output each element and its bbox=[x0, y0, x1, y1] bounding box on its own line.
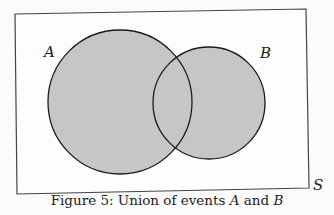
caption-mid: and bbox=[239, 192, 273, 208]
figure-caption: Figure 5: Union of events A and B bbox=[0, 192, 334, 208]
caption-b: B bbox=[273, 192, 283, 208]
label-a: A bbox=[42, 43, 55, 61]
caption-a: A bbox=[230, 192, 240, 208]
venn-diagram: A B S bbox=[0, 0, 334, 215]
caption-text: Figure 5: Union of events bbox=[51, 192, 230, 208]
label-b: B bbox=[259, 44, 271, 62]
